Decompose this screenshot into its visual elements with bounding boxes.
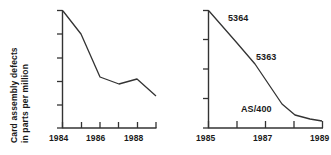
y-axis-ticks-right [203,11,209,129]
x-tick-label-1985: 1985 [196,133,215,143]
x-tick-label-1987: 1987 [253,133,272,143]
x-tick-label-1989: 1989 [310,133,329,143]
chart-panel-circuit-cards-removed: % of circuit cards removed [165,0,331,155]
annotation-as400: AS/400 [241,104,272,114]
chart-panel-card-assembly-defects: Card assembly defects in parts per milli… [0,0,165,155]
plot-area-left [0,0,165,155]
x-tick-label-1984: 1984 [49,133,68,143]
annotation-5363: 5363 [256,52,276,62]
x-axis-ticks-left [63,122,157,128]
figure-container: Card assembly defects in parts per milli… [0,0,331,155]
plot-area-right [165,0,331,155]
y-axis-ticks-left [57,11,63,129]
x-tick-label-1988: 1988 [124,133,143,143]
annotation-5364: 5364 [228,13,248,23]
x-axis-ticks-right [209,121,323,128]
data-line-card-assembly-defects [63,11,156,96]
x-tick-label-1986: 1986 [86,133,105,143]
